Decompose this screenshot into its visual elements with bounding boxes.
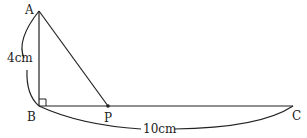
geometry-diagram: A B P C 4cm 10cm [0, 0, 307, 138]
label-p: P [104, 111, 112, 125]
right-angle-marker [39, 99, 46, 106]
label-a: A [24, 3, 34, 17]
brace-bc-left [39, 106, 141, 129]
measure-ab: 4cm [7, 51, 33, 65]
label-b: B [27, 110, 36, 124]
segment-ap [39, 11, 108, 106]
point-p-dot [106, 104, 110, 108]
label-c: C [292, 109, 301, 123]
brace-bc-right [174, 106, 293, 129]
brace-ab-lower [27, 70, 39, 106]
measure-bc: 10cm [143, 122, 177, 136]
